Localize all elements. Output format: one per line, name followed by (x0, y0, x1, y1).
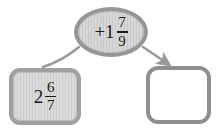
operator-oval[interactable]: + 1 7 9 (74, 7, 148, 57)
input-fraction: 6 7 (45, 80, 56, 113)
input-value-box[interactable]: 2 6 7 (9, 68, 81, 125)
operator-numerator: 7 (117, 15, 127, 30)
operator-denominator: 9 (117, 34, 127, 49)
output-answer-box[interactable] (146, 66, 211, 124)
plus-sign: + (94, 22, 105, 41)
operator-fraction: 7 9 (117, 15, 128, 48)
operator-whole-number: 1 (105, 22, 115, 41)
input-numerator: 6 (46, 80, 56, 95)
operator-to-output-arrow (143, 47, 165, 62)
function-machine-diagram: + 1 7 9 2 6 7 (0, 0, 222, 129)
input-denominator: 7 (46, 98, 56, 113)
input-to-operator-curve (43, 47, 79, 67)
input-whole-number: 2 (34, 87, 44, 106)
input-value: 2 6 7 (34, 80, 57, 113)
operator-value: + 1 7 9 (94, 15, 127, 48)
